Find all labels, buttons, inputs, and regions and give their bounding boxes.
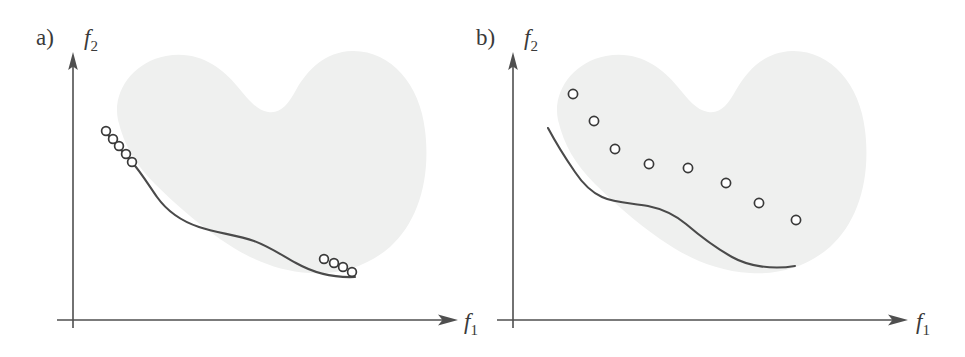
solution-point xyxy=(644,159,653,168)
solution-point xyxy=(348,268,357,277)
solution-point xyxy=(721,178,730,187)
panel-b: b) f2 f1 xyxy=(476,25,930,338)
solution-point xyxy=(122,150,131,159)
solution-point xyxy=(115,142,124,151)
x-axis-label-b-sub: 1 xyxy=(922,322,930,338)
x-axis-label-a-sub: 1 xyxy=(470,322,478,338)
feasible-region-blob-b xyxy=(557,51,866,273)
y-axis-label-a-sub: 2 xyxy=(90,38,98,54)
panel-label-a: a) xyxy=(36,25,54,50)
y-axis-label-b: f2 xyxy=(524,25,538,54)
solution-point xyxy=(589,116,598,125)
panel-a: a) f2 f1 xyxy=(36,25,478,338)
y-axis-label-b-sub: 2 xyxy=(530,38,538,54)
solution-point xyxy=(568,89,577,98)
figure-svg: a) f2 f1 b) f2 f xyxy=(0,0,965,357)
feasible-region-blob-a xyxy=(117,51,426,273)
solution-point xyxy=(754,198,763,207)
solution-point xyxy=(330,259,339,268)
figure-container: a) f2 f1 b) f2 f xyxy=(0,0,965,357)
solution-point xyxy=(791,215,800,224)
solution-point xyxy=(610,144,619,153)
solution-point xyxy=(339,263,348,272)
panel-label-b: b) xyxy=(476,25,495,50)
solution-point xyxy=(128,158,137,167)
solution-point xyxy=(683,163,692,172)
solution-point xyxy=(320,255,329,264)
solution-point xyxy=(102,127,111,136)
x-axis-label-a: f1 xyxy=(464,309,478,338)
y-axis-label-a: f2 xyxy=(84,25,98,54)
x-axis-label-b: f1 xyxy=(916,309,930,338)
